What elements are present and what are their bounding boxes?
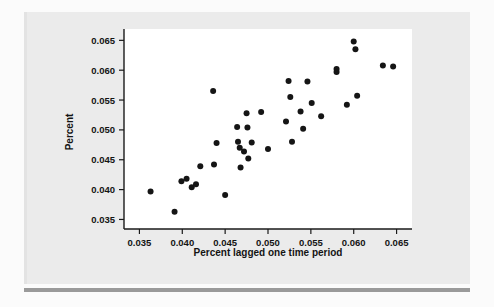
data-point — [172, 209, 178, 215]
data-point — [211, 162, 217, 168]
y-tick-label: 0.040 — [91, 184, 115, 195]
data-point — [184, 176, 190, 182]
scatter-chart: 0.0350.0400.0450.0500.0550.0600.065 Perc… — [0, 0, 494, 307]
data-points-group — [148, 39, 397, 215]
data-point — [178, 178, 184, 184]
data-point — [235, 139, 241, 145]
x-axis-title: Percent lagged one time period — [194, 247, 343, 258]
data-point — [241, 148, 247, 154]
x-tick-label: 0.040 — [170, 237, 194, 248]
data-point — [344, 102, 350, 108]
data-point — [289, 139, 295, 145]
data-point — [351, 39, 357, 45]
data-point — [244, 110, 250, 116]
y-axis-title: Percent — [64, 113, 75, 150]
data-point — [222, 192, 228, 198]
data-point — [283, 119, 289, 125]
data-point — [354, 93, 360, 99]
y-tick-label: 0.045 — [91, 154, 115, 165]
data-point — [334, 69, 340, 75]
y-tick-label: 0.055 — [91, 95, 115, 106]
y-axis-tick-labels: 0.0350.0400.0450.0500.0550.0600.065 — [91, 35, 115, 225]
x-tick-label: 0.035 — [128, 237, 152, 248]
data-point — [304, 79, 310, 85]
data-point — [245, 156, 251, 162]
x-axis: 0.0350.0400.0450.0500.0550.0600.065 Perc… — [124, 229, 412, 258]
data-point — [238, 165, 244, 171]
data-point — [300, 126, 306, 132]
data-point — [234, 124, 240, 130]
data-point — [197, 163, 203, 169]
data-point — [380, 62, 386, 68]
x-tick-label: 0.060 — [342, 237, 366, 248]
y-tick-label: 0.065 — [91, 35, 115, 46]
data-point — [265, 146, 271, 152]
figure-container: 0.0350.0400.0450.0500.0550.0600.065 Perc… — [0, 0, 494, 307]
x-tick-label: 0.065 — [385, 237, 409, 248]
data-point — [214, 140, 220, 146]
y-tick-label: 0.060 — [91, 65, 115, 76]
y-axis: 0.0350.0400.0450.0500.0550.0600.065 Perc… — [64, 29, 124, 229]
data-point — [210, 88, 216, 94]
data-point — [258, 109, 264, 115]
data-point — [390, 64, 396, 70]
y-axis-ticks — [119, 40, 124, 219]
y-tick-label: 0.035 — [91, 214, 115, 225]
data-point — [193, 181, 199, 187]
data-point — [244, 125, 250, 131]
data-point — [352, 46, 358, 52]
data-point — [148, 188, 154, 194]
data-point — [318, 113, 324, 119]
data-point — [287, 94, 293, 100]
data-point — [249, 139, 255, 145]
data-point — [298, 108, 304, 114]
x-axis-ticks — [139, 229, 396, 234]
y-tick-label: 0.050 — [91, 124, 115, 135]
data-point — [309, 100, 315, 106]
data-point — [286, 78, 292, 84]
